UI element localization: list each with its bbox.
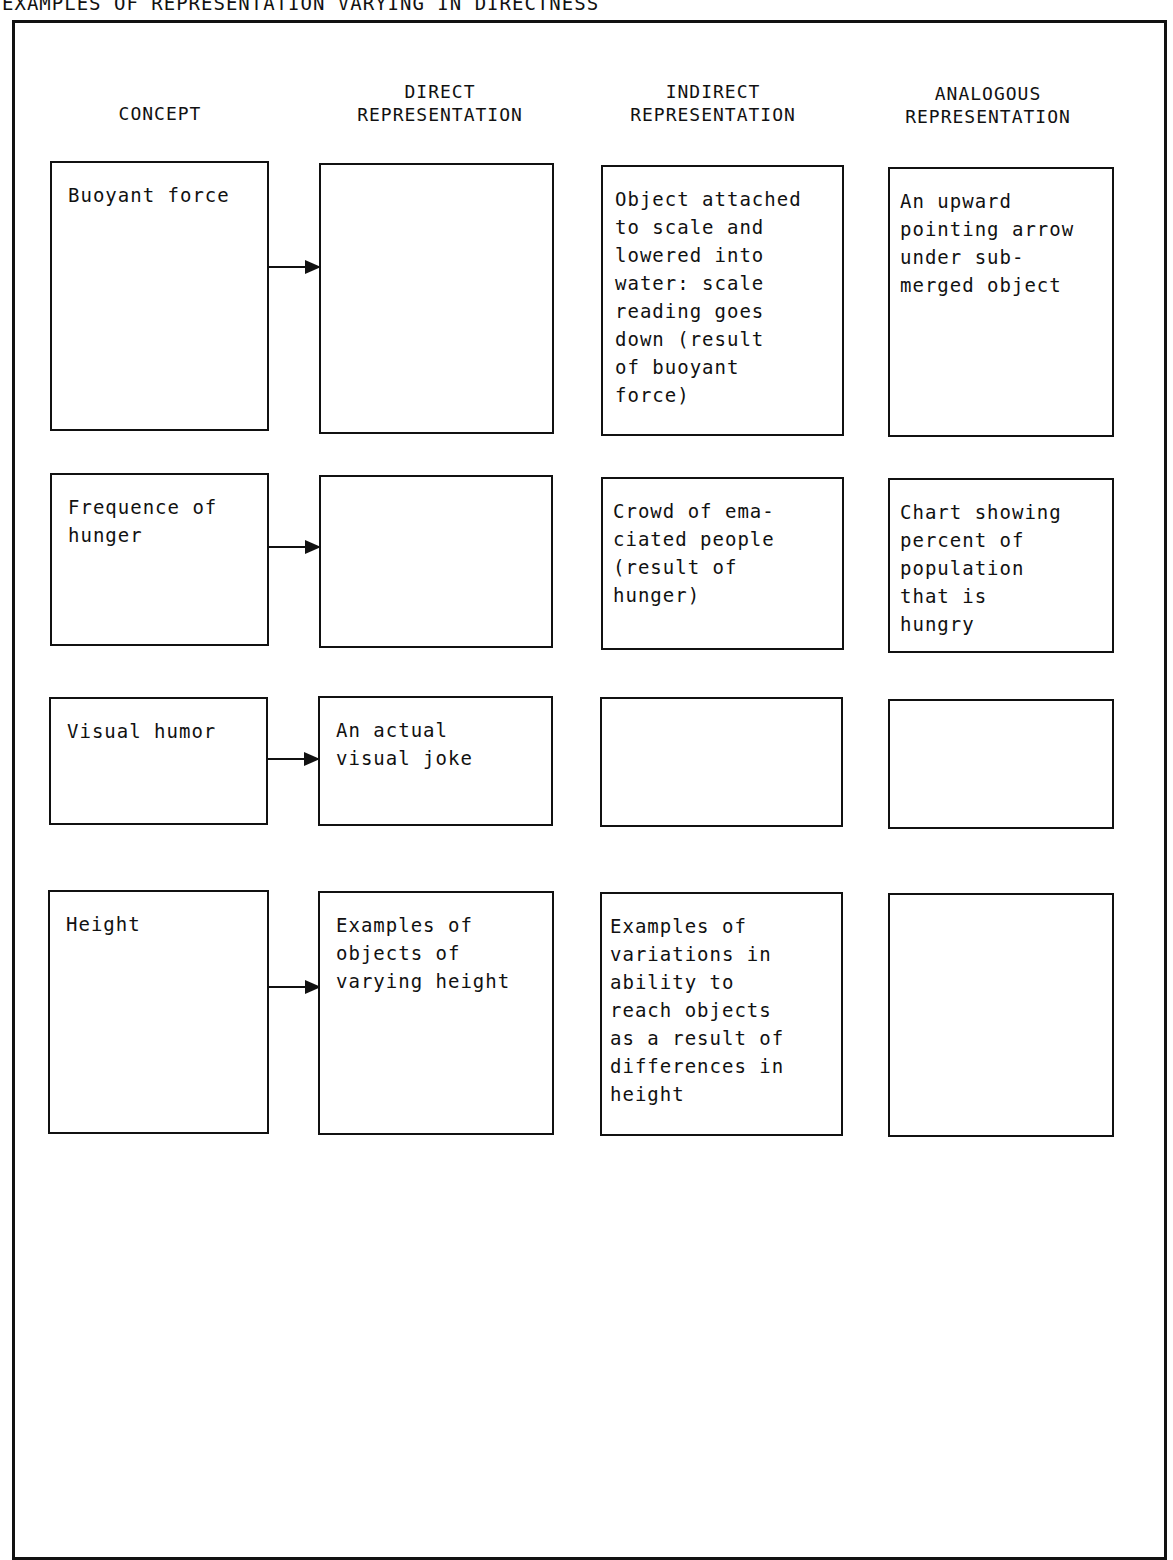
header-analogous: ANALOGOUS REPRESENTATION bbox=[878, 82, 1098, 128]
analogous-box-visual-humor bbox=[888, 699, 1114, 829]
header-concept: CONCEPT bbox=[100, 102, 220, 125]
indirect-box-frequence-of-hunger: Crowd of ema- ciated people (result of h… bbox=[601, 477, 844, 650]
indirect-box-visual-humor bbox=[600, 697, 843, 827]
arrow-icon bbox=[269, 546, 319, 548]
analogous-box-frequence-of-hunger: Chart showing percent of population that… bbox=[888, 478, 1114, 653]
indirect-box-height: Examples of variations in ability to rea… bbox=[600, 892, 843, 1136]
direct-box-buoyant-force bbox=[319, 163, 554, 434]
direct-box-height: Examples of objects of varying height bbox=[318, 891, 554, 1135]
concept-box-buoyant-force: Buoyant force bbox=[50, 161, 269, 431]
header-indirect: INDIRECT REPRESENTATION bbox=[603, 80, 823, 126]
analogous-box-height bbox=[888, 893, 1114, 1137]
arrow-icon bbox=[268, 758, 318, 760]
analogous-box-buoyant-force: An upward pointing arrow under sub- merg… bbox=[888, 167, 1114, 437]
indirect-box-buoyant-force: Object attached to scale and lowered int… bbox=[601, 165, 844, 436]
arrow-icon bbox=[269, 986, 319, 988]
arrow-icon bbox=[269, 266, 319, 268]
figure-title: EXAMPLES OF REPRESENTATION VARYING IN DI… bbox=[2, 0, 599, 14]
concept-box-frequence-of-hunger: Frequence of hunger bbox=[50, 473, 269, 646]
header-direct: DIRECT REPRESENTATION bbox=[330, 80, 550, 126]
concept-box-height: Height bbox=[48, 890, 269, 1134]
direct-box-frequence-of-hunger bbox=[319, 475, 553, 648]
concept-box-visual-humor: Visual humor bbox=[49, 697, 268, 825]
direct-box-visual-humor: An actual visual joke bbox=[318, 696, 553, 826]
